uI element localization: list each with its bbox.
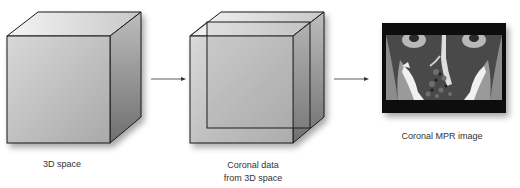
- label-coronal-data-line1: Coronal data: [224, 159, 283, 172]
- label-3d-space: 3D space: [43, 158, 81, 171]
- label-coronal-data-line2: from 3D space: [224, 172, 283, 185]
- label-coronal-data: Coronal data from 3D space: [224, 159, 283, 185]
- coronal-slice-plane: [190, 22, 310, 128]
- coronal-mpr-image: [382, 23, 506, 113]
- label-coronal-mpr-text: Coronal MPR image: [401, 131, 482, 141]
- arrow-to-coronal-data: [151, 77, 186, 81]
- label-coronal-mpr: Coronal MPR image: [401, 130, 482, 143]
- label-3d-space-text: 3D space: [43, 159, 81, 169]
- cube-3d-space: [7, 12, 141, 143]
- arrow-to-coronal-mpr: [334, 77, 369, 81]
